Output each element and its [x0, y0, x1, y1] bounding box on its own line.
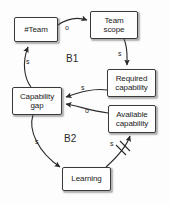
node-team-scope-label: Team scope [104, 16, 125, 35]
edge-label-scope-to-required: s [118, 50, 122, 57]
edge-required-to-gap [66, 90, 107, 97]
edge-label-available-to-gap: o [85, 107, 89, 114]
node-required-capability-label: Required capability [115, 74, 147, 93]
node-team[interactable]: #Team [14, 17, 58, 42]
loop-label-b2: B2 [64, 133, 77, 144]
node-learning[interactable]: Learning [62, 167, 111, 191]
node-available-capability[interactable]: Available capability [108, 105, 156, 133]
node-capability-gap[interactable]: Capability gap [12, 87, 62, 115]
edge-label-gap-to-learning: s [35, 138, 39, 145]
causal-loop-diagram: #Team Team scope Required capability Ava… [0, 0, 170, 204]
edge-team-to-scope [58, 18, 87, 25]
node-team-scope[interactable]: Team scope [90, 11, 138, 39]
loop-label-b1: B1 [66, 53, 79, 64]
edge-label-required-to-gap: s [81, 84, 85, 91]
edge-scope-to-required [124, 39, 127, 65]
edge-gap-to-team [24, 47, 31, 87]
edge-label-learning-to-available: s [110, 140, 114, 147]
node-learning-label: Learning [71, 174, 101, 184]
node-required-capability[interactable]: Required capability [107, 69, 156, 97]
node-team-label: #Team [24, 25, 48, 35]
edge-label-team-to-scope: o [65, 24, 69, 31]
node-capability-gap-label: Capability gap [20, 92, 54, 111]
node-available-capability-label: Available capability [116, 110, 148, 129]
edge-label-gap-to-team: s [26, 58, 30, 65]
